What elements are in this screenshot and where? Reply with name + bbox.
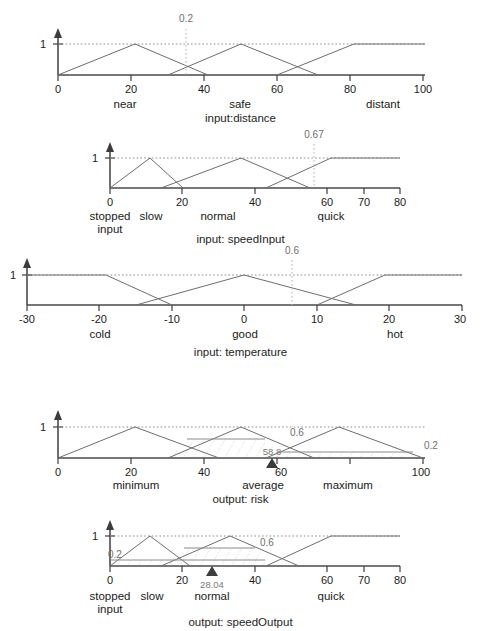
x-tick-label: 20 — [176, 574, 188, 586]
chart-temperature-svg: 1 -30 -20 -10 0 10 20 30 0.6 cold good h… — [0, 248, 481, 348]
x-tick-label: 0 — [55, 83, 61, 95]
x-tick-label: 40 — [198, 466, 210, 478]
term-label-near: near — [113, 98, 136, 110]
term-label-normal: normal — [200, 210, 235, 222]
x-tick-label: 30 — [454, 313, 466, 325]
x-tick-label: 70 — [358, 574, 370, 586]
x-ticks-risk — [58, 458, 423, 464]
y-axis-arrow-icon — [54, 28, 62, 38]
clip-value-average: 0.6 — [290, 427, 304, 438]
x-tick-label: 100 — [412, 466, 430, 478]
x-tick-label: 40 — [198, 83, 210, 95]
x-tick-label: 80 — [344, 83, 356, 95]
term-label-minimum: minimum — [113, 479, 160, 491]
term-label-safe: safe — [229, 98, 251, 110]
y-tick-label-risk: 1 — [40, 421, 46, 433]
term-label-distant: distant — [366, 98, 401, 110]
x-tick-label: 40 — [249, 574, 261, 586]
term-label-input: input — [98, 603, 124, 615]
term-label-average: average — [242, 479, 284, 491]
caption-distance: input:distance — [0, 112, 481, 124]
y-axis-arrow-icon — [54, 410, 62, 420]
term-label-cold: cold — [89, 328, 110, 340]
crisp-value-temperature: 0.6 — [285, 245, 299, 256]
chart-distance-svg: 1 0 20 40 60 80 100 0.2 near safe distan… — [0, 0, 481, 130]
y-axis-arrow-icon — [23, 258, 31, 268]
mf-quick — [266, 536, 400, 566]
x-ticks-speedinput — [110, 188, 400, 194]
x-ticks-distance — [58, 75, 423, 81]
x-tick-label: 40 — [249, 196, 261, 208]
x-tick-label: 60 — [321, 196, 333, 208]
clip-value-maximum: 0.2 — [424, 440, 438, 451]
x-ticks-temperature — [27, 305, 462, 311]
x-tick-label: 80 — [394, 196, 406, 208]
y-axis-arrow-icon — [106, 520, 114, 530]
term-label-slow: slow — [139, 210, 163, 222]
term-label-stopped: stopped — [90, 210, 131, 222]
y-axis-arrow-icon — [106, 142, 114, 152]
x-tick-label: -20 — [91, 313, 107, 325]
crisp-value-speedinput: 0.67 — [304, 129, 324, 140]
centroid-value-risk: 58.8 — [263, 446, 282, 457]
crisp-value-distance: 0.2 — [179, 13, 193, 24]
x-tick-label: 100 — [414, 83, 432, 95]
caption-risk: output: risk — [0, 493, 481, 505]
term-label-quick: quick — [318, 210, 345, 222]
term-label-good: good — [232, 328, 258, 340]
x-tick-label: 10 — [311, 313, 323, 325]
y-tick-label-temperature: 1 — [10, 269, 16, 281]
term-label-maximum: maximum — [323, 479, 373, 491]
x-tick-label: 80 — [394, 574, 406, 586]
term-label-stopped: stopped — [90, 590, 131, 602]
x-tick-label: 70 — [358, 196, 370, 208]
x-tick-label: 0 — [241, 313, 247, 325]
x-tick-label: 0 — [107, 196, 113, 208]
chart-speedoutput-svg: 1 0 20 40 60 70 80 0.2 0.6 28.04 stopped… — [0, 516, 481, 628]
chart-speedoutput: 1 0 20 40 60 70 80 0.2 0.6 28.04 stopped… — [0, 516, 481, 631]
x-tick-label: -30 — [19, 313, 35, 325]
x-tick-label: 20 — [125, 83, 137, 95]
clip-fill-maximum — [274, 452, 423, 458]
x-tick-label: 60 — [321, 574, 333, 586]
x-tick-label: 0 — [107, 574, 113, 586]
centroid-marker-risk — [266, 458, 278, 468]
clip-value-normal: 0.6 — [260, 537, 274, 548]
chart-risk: 1 0 20 40 60 100 0.6 0.2 58.8 minimum av… — [0, 396, 481, 511]
mf-normal — [161, 158, 310, 188]
x-tick-label: -10 — [164, 313, 180, 325]
x-tick-label: 20 — [176, 196, 188, 208]
clip-value-slow: 0.2 — [108, 549, 122, 560]
term-label-slow: slow — [140, 590, 164, 602]
centroid-value-speedoutput: 28.04 — [200, 579, 224, 590]
term-label-quick: quick — [318, 590, 345, 602]
mf-distant — [277, 44, 425, 75]
x-tick-label: 0 — [55, 466, 61, 478]
mf-safe — [168, 44, 318, 75]
mf-quick — [266, 158, 400, 188]
x-tick-label: 20 — [383, 313, 395, 325]
mf-cold — [27, 275, 172, 305]
chart-speedinput-svg: 1 0 20 40 60 70 80 0.67 stopped slow nor… — [0, 132, 481, 232]
centroid-marker-speedoutput — [206, 566, 218, 576]
y-tick-label-distance: 1 — [40, 38, 46, 50]
mf-good — [136, 275, 356, 305]
term-label-normal: normal — [194, 590, 229, 602]
x-tick-label: 20 — [125, 466, 137, 478]
chart-distance: 1 0 20 40 60 80 100 0.2 near safe distan… — [0, 0, 481, 130]
y-tick-label-speedoutput: 1 — [92, 530, 98, 542]
chart-temperature: 1 -30 -20 -10 0 10 20 30 0.6 cold good h… — [0, 248, 481, 363]
x-ticks-speedoutput — [110, 566, 400, 572]
x-tick-label: 60 — [271, 83, 283, 95]
term-label-hot: hot — [387, 328, 404, 340]
chart-risk-svg: 1 0 20 40 60 100 0.6 0.2 58.8 minimum av… — [0, 396, 481, 496]
caption-speedoutput: output: speedOutput — [0, 616, 481, 628]
caption-temperature: input: temperature — [0, 346, 481, 358]
caption-speedinput: input: speedInput — [0, 233, 481, 245]
chart-speedinput: 1 0 20 40 60 70 80 0.67 stopped slow nor… — [0, 132, 481, 250]
y-tick-label-speedinput: 1 — [92, 152, 98, 164]
